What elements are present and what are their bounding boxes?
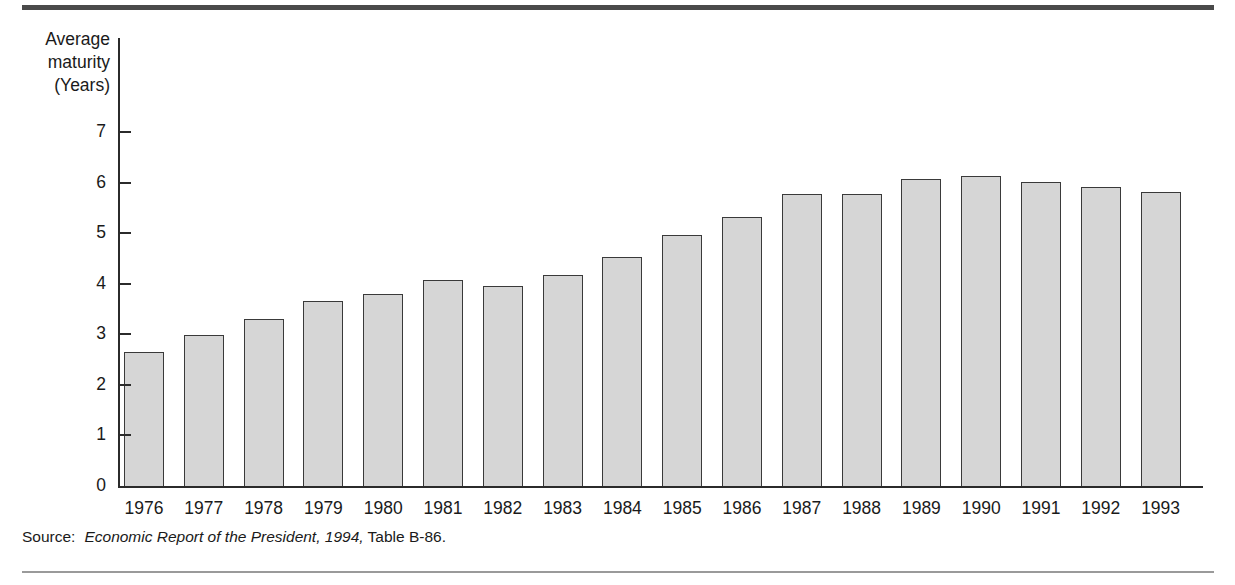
source-label: Source:	[22, 528, 75, 545]
x-axis-tick-label: 1989	[893, 498, 949, 519]
bar	[842, 194, 882, 486]
x-axis-tick-label: 1984	[594, 498, 650, 519]
x-axis-tick-label: 1991	[1013, 498, 1069, 519]
y-axis-tick-label: 4	[66, 273, 106, 294]
y-axis-tick-label: 2	[66, 374, 106, 395]
bar	[184, 335, 224, 486]
bar	[423, 280, 463, 486]
x-axis-tick-label: 1988	[834, 498, 890, 519]
y-axis-tick-label: 1	[66, 424, 106, 445]
y-axis-title-line-1: Average	[0, 28, 110, 51]
y-axis-tick	[120, 182, 131, 184]
y-axis-tick	[120, 434, 131, 436]
source-citation-table: Table B-86.	[364, 528, 446, 545]
y-axis-tick	[120, 232, 131, 234]
y-axis-tick-label: 7	[66, 121, 106, 142]
x-axis-tick-label: 1990	[953, 498, 1009, 519]
x-axis-tick-label: 1993	[1133, 498, 1189, 519]
bar	[662, 235, 702, 486]
y-axis-tick	[120, 333, 131, 335]
x-axis-tick-label: 1980	[355, 498, 411, 519]
bar	[1021, 182, 1061, 486]
bar	[543, 275, 583, 486]
y-axis-tick	[120, 384, 131, 386]
source-note: Source:Economic Report of the President,…	[22, 528, 446, 546]
y-axis-tick-label: 6	[66, 172, 106, 193]
bottom-rule	[22, 571, 1214, 573]
x-axis-tick-label: 1986	[714, 498, 770, 519]
y-axis-title-line-2: maturity	[0, 51, 110, 74]
bar	[303, 301, 343, 486]
y-axis-title: Average maturity (Years)	[0, 28, 110, 97]
bar	[483, 286, 523, 486]
x-axis-tick-label: 1982	[475, 498, 531, 519]
bar	[722, 217, 762, 486]
source-citation-title: Economic Report of the President, 1994,	[84, 528, 363, 545]
x-axis-tick-label: 1979	[295, 498, 351, 519]
figure-container: Average maturity (Years) 01234567 197619…	[0, 0, 1235, 585]
bar	[1081, 187, 1121, 486]
plot-area	[118, 38, 1203, 488]
x-axis-tick-label: 1977	[176, 498, 232, 519]
y-axis-tick-label: 0	[66, 475, 106, 496]
bar-series	[118, 38, 1203, 488]
x-axis-tick-label: 1983	[535, 498, 591, 519]
bar	[1141, 192, 1181, 486]
bar	[961, 176, 1001, 486]
y-axis-tick	[120, 283, 131, 285]
x-axis-tick-label: 1981	[415, 498, 471, 519]
x-axis-tick-label: 1987	[774, 498, 830, 519]
top-rule	[22, 5, 1214, 10]
bar	[244, 319, 284, 486]
bar	[602, 257, 642, 486]
x-axis-tick-label: 1976	[116, 498, 172, 519]
y-axis-tick	[120, 131, 131, 133]
x-axis-tick-label: 1978	[236, 498, 292, 519]
y-axis-tick-label: 3	[66, 323, 106, 344]
y-axis-title-line-3: (Years)	[0, 74, 110, 97]
x-axis-tick-label: 1985	[654, 498, 710, 519]
bar	[901, 179, 941, 486]
y-axis-tick-label: 5	[66, 222, 106, 243]
x-axis-tick-label: 1992	[1073, 498, 1129, 519]
bar	[124, 352, 164, 486]
bar	[782, 194, 822, 486]
bar	[363, 294, 403, 486]
